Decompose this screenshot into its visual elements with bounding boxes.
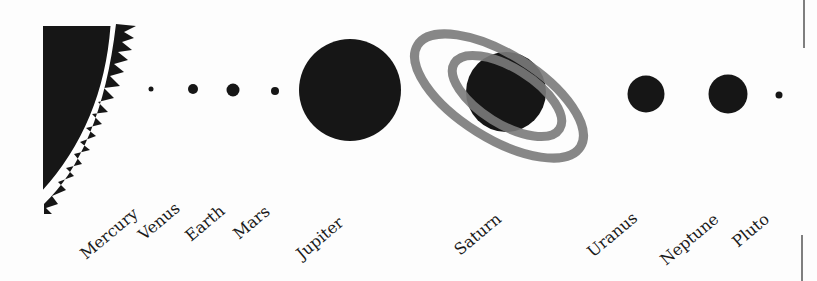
jupiter-icon bbox=[299, 39, 401, 141]
label-saturn: Saturn bbox=[450, 209, 504, 259]
label-jupiter: Jupiter bbox=[291, 213, 348, 265]
label-earth: Earth bbox=[181, 201, 228, 245]
label-neptune: Neptune bbox=[656, 209, 722, 269]
earth-icon bbox=[227, 84, 240, 97]
venus-icon bbox=[188, 84, 198, 94]
mars-icon bbox=[271, 87, 279, 95]
label-mars: Mars bbox=[229, 202, 273, 243]
diagram-canvas: Mercury Venus Earth Mars Jupiter Saturn … bbox=[0, 0, 817, 281]
uranus-icon bbox=[628, 76, 665, 113]
solar-system-diagram: Mercury Venus Earth Mars Jupiter Saturn … bbox=[0, 0, 817, 281]
label-venus: Venus bbox=[134, 198, 184, 244]
label-mercury: Mercury bbox=[76, 204, 141, 263]
label-pluto: Pluto bbox=[728, 209, 773, 251]
mercury-icon bbox=[149, 87, 154, 92]
label-uranus: Uranus bbox=[583, 208, 641, 261]
neptune-icon bbox=[709, 75, 748, 114]
sun-icon bbox=[43, 24, 136, 214]
saturn-icon bbox=[395, 10, 602, 183]
pluto-icon bbox=[776, 92, 783, 99]
